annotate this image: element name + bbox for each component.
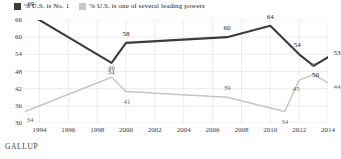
data-point-label: 69: [28, 1, 35, 8]
data-point-label: 53: [334, 50, 341, 57]
x-tick-label: 2014: [321, 126, 335, 135]
y-tick-label: 54: [15, 51, 22, 58]
x-tick-label: 2006: [206, 126, 220, 135]
data-point-label: 34: [27, 116, 34, 123]
x-tick-label: 2008: [234, 126, 248, 135]
y-tick-label: 48: [15, 68, 22, 75]
plot-area: [25, 20, 328, 123]
y-tick-label: 36: [15, 102, 22, 109]
y-tick-label: 42: [15, 85, 22, 92]
data-point-label: 60: [224, 25, 231, 32]
x-tick-label: 2000: [119, 126, 133, 135]
source-label: GALLUP: [5, 142, 38, 151]
data-point-label: 58: [123, 30, 130, 37]
data-point-label: 34: [281, 118, 288, 125]
plot-svg: [25, 20, 328, 123]
legend-label-several-leading-powers: % U.S. is one of several leading powers: [89, 2, 205, 11]
x-tick-label: 2004: [177, 126, 191, 135]
y-tick-label: 66: [15, 17, 22, 24]
data-point-label: 46: [108, 65, 115, 72]
y-tick-label: 30: [15, 120, 22, 127]
data-point-label: 44: [334, 83, 341, 90]
series-line-us-is-no-1: [25, 20, 328, 66]
x-axis: 1994199619982000200220042006200820102012…: [25, 126, 328, 138]
y-axis: 66605448423630: [0, 20, 23, 123]
data-point-label: 39: [224, 85, 231, 92]
data-point-label: 47: [310, 62, 317, 69]
x-tick-label: 2002: [148, 126, 162, 135]
data-point-label: 45: [293, 86, 300, 93]
x-tick-label: 2012: [292, 126, 306, 135]
data-point-label: 64: [267, 13, 274, 20]
x-tick-label: 1996: [61, 126, 75, 135]
data-point-label: 50: [312, 71, 319, 78]
legend-swatch-dark: [14, 3, 21, 10]
data-point-label: 41: [124, 98, 131, 105]
x-tick-label: 1998: [90, 126, 104, 135]
x-tick-label: 2010: [263, 126, 277, 135]
y-tick-label: 60: [15, 34, 22, 41]
data-point-label: 54: [294, 42, 301, 49]
chart-legend: % U.S. is No. 1 % U.S. is one of several…: [14, 2, 205, 11]
x-tick-label: 1994: [32, 126, 46, 135]
legend-item-several-leading-powers: % U.S. is one of several leading powers: [79, 2, 205, 11]
legend-item-us-is-no-1: % U.S. is No. 1: [14, 2, 69, 11]
legend-swatch-light: [79, 3, 86, 10]
